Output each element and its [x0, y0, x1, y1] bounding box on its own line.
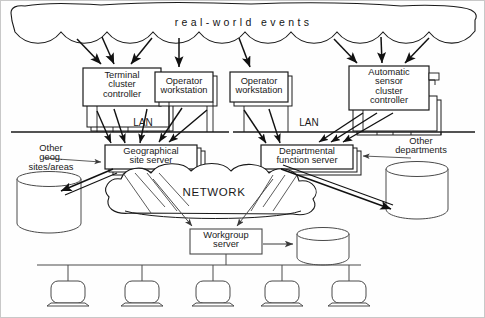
- operator-workstation-2-box[interactable]: [230, 72, 292, 106]
- operator-workstation-1-box[interactable]: [155, 72, 217, 106]
- real-world-events-cloud: [11, 3, 476, 44]
- workstation-icon-2: [121, 265, 163, 306]
- workstation-icon-3: [192, 265, 234, 306]
- workstation-icons[interactable]: [47, 265, 370, 306]
- geog-sites-database[interactable]: [17, 172, 81, 234]
- diagram-svg: [1, 1, 485, 318]
- workstation-icon-5: [328, 265, 370, 306]
- diagram-canvas: real-world events Terminal cluster contr…: [0, 0, 485, 318]
- other-departments-database[interactable]: [386, 162, 448, 220]
- workstation-icon-4: [261, 265, 303, 306]
- workgroup-database[interactable]: [297, 228, 349, 266]
- network-cloud: [106, 164, 316, 219]
- workgroup-server-box[interactable]: [190, 229, 262, 254]
- workstation-icon-1: [47, 265, 89, 306]
